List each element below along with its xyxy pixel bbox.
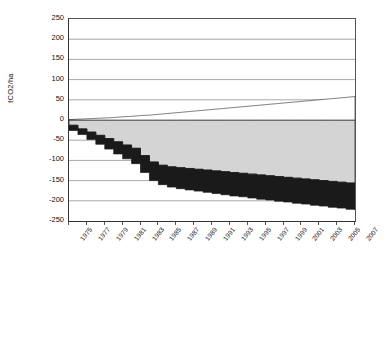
x-tick-label: 2007 (365, 226, 380, 242)
x-tick-mark (140, 222, 141, 225)
y-tick-label: -50 (38, 135, 64, 143)
x-tick-label: 1975 (79, 226, 94, 242)
x-tick-label: 1977 (97, 226, 112, 242)
stacked-area-svg (69, 19, 355, 221)
y-axis-tick-labels: 250200150100500-50-100-150-200-250 (38, 0, 64, 230)
x-tick-mark (300, 222, 301, 225)
x-tick-label: 1989 (204, 226, 219, 242)
x-tick-mark (157, 222, 158, 225)
x-tick-mark (229, 222, 230, 225)
x-tick-label: 1985 (168, 226, 183, 242)
y-tick-label: -250 (38, 216, 64, 224)
y-tick-label: 100 (38, 75, 64, 83)
y-axis-title: tCO2/ha (6, 8, 15, 88)
chart-container: tCO2/ha 250200150100500-50-100-150-200-2… (0, 0, 392, 256)
x-tick-label: 1991 (222, 226, 237, 242)
plot-area (68, 18, 356, 222)
y-tick-label: 250 (38, 14, 64, 22)
x-tick-label: 1983 (150, 226, 165, 242)
x-axis-tick-labels: 1975197719791981198319851987198919911993… (68, 222, 356, 256)
y-tick-label: 200 (38, 34, 64, 42)
x-tick-mark (336, 222, 337, 225)
y-tick-label: 150 (38, 54, 64, 62)
x-tick-label: 2003 (329, 226, 344, 242)
x-tick-mark (283, 222, 284, 225)
y-tick-label: -100 (38, 155, 64, 163)
y-tick-label: -200 (38, 196, 64, 204)
x-tick-mark (354, 222, 355, 225)
x-tick-mark (265, 222, 266, 225)
x-tick-mark (86, 222, 87, 225)
x-tick-label: 2001 (311, 226, 326, 242)
x-tick-label: 2005 (347, 226, 362, 242)
chart-page: tCO2/ha 250200150100500-50-100-150-200-2… (0, 0, 392, 343)
x-tick-mark (211, 222, 212, 225)
x-tick-mark (104, 222, 105, 225)
chart-legend (0, 256, 392, 343)
x-tick-mark (247, 222, 248, 225)
y-axis-title-text: tCO2/ha (6, 48, 15, 128)
x-tick-label: 1979 (114, 226, 129, 242)
y-tick-label: -150 (38, 176, 64, 184)
x-tick-label: 1995 (257, 226, 272, 242)
x-tick-mark (175, 222, 176, 225)
y-tick-label: 50 (38, 95, 64, 103)
x-tick-label: 1981 (132, 226, 147, 242)
x-tick-mark (193, 222, 194, 225)
y-tick-label: 0 (38, 115, 64, 123)
x-tick-label: 1987 (186, 226, 201, 242)
x-tick-mark (122, 222, 123, 225)
x-tick-label: 1997 (275, 226, 290, 242)
x-tick-label: 1999 (293, 226, 308, 242)
x-tick-mark (68, 222, 69, 225)
x-tick-mark (318, 222, 319, 225)
x-tick-label: 1993 (240, 226, 255, 242)
